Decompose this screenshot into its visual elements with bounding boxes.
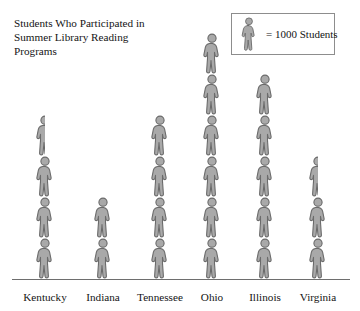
pictograph-column	[83, 197, 123, 279]
person-icon	[306, 238, 330, 279]
person-icon	[200, 33, 224, 74]
person-icon	[253, 238, 277, 279]
person-icon	[200, 156, 224, 197]
person-icon	[148, 156, 172, 197]
pictograph-column	[140, 115, 180, 279]
person-icon	[253, 156, 277, 197]
pictograph-column	[298, 156, 338, 279]
person-icon-half	[306, 156, 330, 197]
person-icon-half	[33, 115, 57, 156]
person-icon	[91, 197, 115, 238]
person-icon	[200, 74, 224, 115]
plot-area: KentuckyIndianaTennesseeOhioIllinoisVirg…	[0, 0, 360, 311]
person-icon	[200, 197, 224, 238]
category-label-virginia: Virginia	[275, 291, 360, 303]
person-icon	[33, 238, 57, 279]
person-icon	[148, 197, 172, 238]
person-icon	[148, 238, 172, 279]
person-icon	[253, 197, 277, 238]
pictograph-column	[192, 33, 232, 279]
person-icon	[200, 115, 224, 156]
axis-baseline	[12, 279, 350, 280]
person-icon	[253, 115, 277, 156]
person-icon	[306, 197, 330, 238]
person-icon	[91, 238, 115, 279]
person-icon	[33, 156, 57, 197]
pictograph-chart: Students Who Participated in Summer Libr…	[0, 0, 360, 311]
person-icon	[33, 197, 57, 238]
person-icon	[148, 115, 172, 156]
person-icon	[253, 74, 277, 115]
person-icon	[200, 238, 224, 279]
pictograph-column	[25, 115, 65, 279]
pictograph-column	[245, 74, 285, 279]
